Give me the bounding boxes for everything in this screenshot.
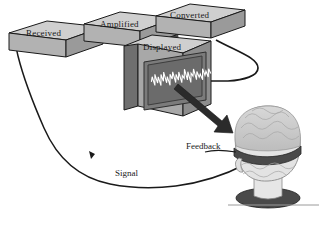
flow-label-feedback: Feedback bbox=[186, 141, 220, 151]
box-label-converted: Converted bbox=[170, 10, 209, 20]
flow-label-signal: Signal bbox=[115, 168, 138, 178]
box-label-displayed: Displayed bbox=[143, 42, 181, 52]
box-label-amplified: Amplified bbox=[100, 19, 139, 29]
box-label-received: Received bbox=[26, 28, 61, 38]
biofeedback-diagram: Received Amplified Converted Displayed S… bbox=[0, 0, 319, 226]
hair-top bbox=[235, 106, 300, 151]
